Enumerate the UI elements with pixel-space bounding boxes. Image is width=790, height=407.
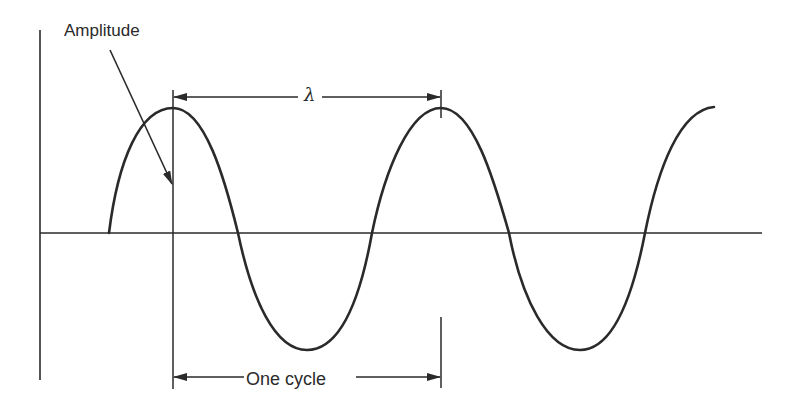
amplitude-pointer-arrow <box>110 50 172 184</box>
amplitude-label: Amplitude <box>64 22 140 39</box>
wavelength-label: λ <box>300 86 319 104</box>
sine-wave <box>109 107 714 350</box>
sine-wave-diagram <box>0 0 790 407</box>
one-cycle-label: One cycle <box>244 370 328 388</box>
